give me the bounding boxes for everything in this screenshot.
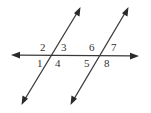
angle-label-7: 7 <box>111 41 117 53</box>
angle-label-2: 2 <box>40 41 46 53</box>
arrowhead-right-line-bottom-icon <box>71 96 78 106</box>
arrowhead-right-line-top-icon <box>122 7 129 17</box>
angle-label-5: 5 <box>84 57 90 69</box>
arrowhead-left-icon <box>11 52 20 59</box>
angle-label-4: 4 <box>55 57 61 69</box>
parallel-lines-diagram: 1 2 3 4 5 6 7 8 <box>0 0 151 113</box>
arrowhead-right-icon <box>130 53 139 60</box>
angle-label-6: 6 <box>89 41 95 53</box>
angle-label-3: 3 <box>61 41 67 53</box>
angle-label-8: 8 <box>104 57 110 69</box>
arrowhead-left-line-top-icon <box>74 7 81 17</box>
arrowhead-left-line-bottom-icon <box>22 96 29 106</box>
transversal-line <box>18 55 132 56</box>
angle-label-1: 1 <box>37 57 43 69</box>
